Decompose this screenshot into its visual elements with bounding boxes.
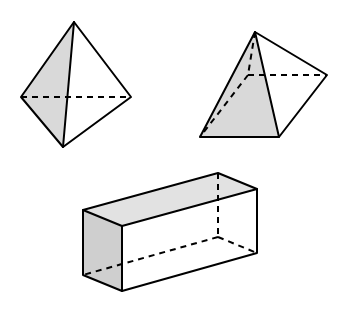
prism-hidden-edge-back: [218, 237, 257, 253]
geometric-solids-figure: [0, 0, 344, 315]
prism-shaded-top-face: [83, 173, 257, 226]
square-pyramid: [200, 32, 327, 137]
tetrahedron: [21, 22, 131, 147]
rectangular-prism: [83, 173, 257, 291]
